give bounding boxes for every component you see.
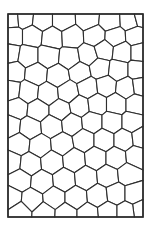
polygon-cell (128, 60, 143, 79)
voronoi-diagram (0, 0, 151, 230)
polygon-cell (8, 14, 19, 28)
polygon-cell (132, 77, 143, 96)
polygon-cell (131, 43, 143, 62)
polygon-cell (117, 201, 134, 217)
polygon-cell (8, 27, 23, 46)
cell-network (8, 14, 143, 217)
